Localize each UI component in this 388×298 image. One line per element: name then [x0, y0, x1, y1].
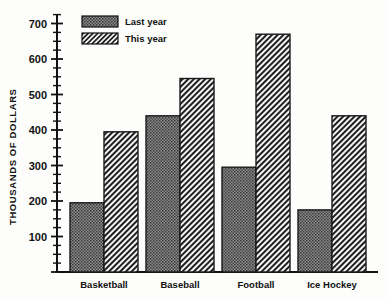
y-tick-label-700: 700	[29, 18, 47, 30]
y-tick-label-200: 200	[29, 195, 47, 207]
bar-football-last-year[interactable]	[222, 167, 256, 272]
category-label-baseball: Baseball	[160, 279, 199, 290]
legend-swatch-this-year	[82, 33, 118, 44]
category-label-football: Football	[238, 279, 275, 290]
bar-ice-hockey-this-year[interactable]	[332, 116, 366, 272]
bar-baseball-last-year[interactable]	[146, 116, 180, 272]
y-tick-label-400: 400	[29, 124, 47, 136]
legend-swatch-last-year	[82, 16, 118, 27]
category-label-ice-hockey: Ice Hockey	[307, 279, 357, 290]
chart-canvas: 700 600 500 400 300 200 100 THOUSANDS OF…	[0, 0, 388, 298]
y-tick-label-100: 100	[29, 231, 47, 243]
bar-chart-figure: 700 600 500 400 300 200 100 THOUSANDS OF…	[0, 0, 388, 298]
y-tick-label-300: 300	[29, 160, 47, 172]
bar-basketball-this-year[interactable]	[104, 132, 138, 272]
category-label-basketball: Basketball	[80, 279, 128, 290]
y-axis-title: THOUSANDS OF DOLLARS	[7, 88, 18, 225]
bar-ice-hockey-last-year[interactable]	[298, 210, 332, 272]
y-tick-label-500: 500	[29, 89, 47, 101]
y-tick-label-600: 600	[29, 53, 47, 65]
bar-baseball-this-year[interactable]	[180, 79, 214, 273]
legend-label-this-year: This year	[125, 33, 167, 44]
bar-football-this-year[interactable]	[256, 34, 290, 272]
legend-label-last-year: Last year	[125, 16, 167, 27]
bar-basketball-last-year[interactable]	[70, 203, 104, 272]
